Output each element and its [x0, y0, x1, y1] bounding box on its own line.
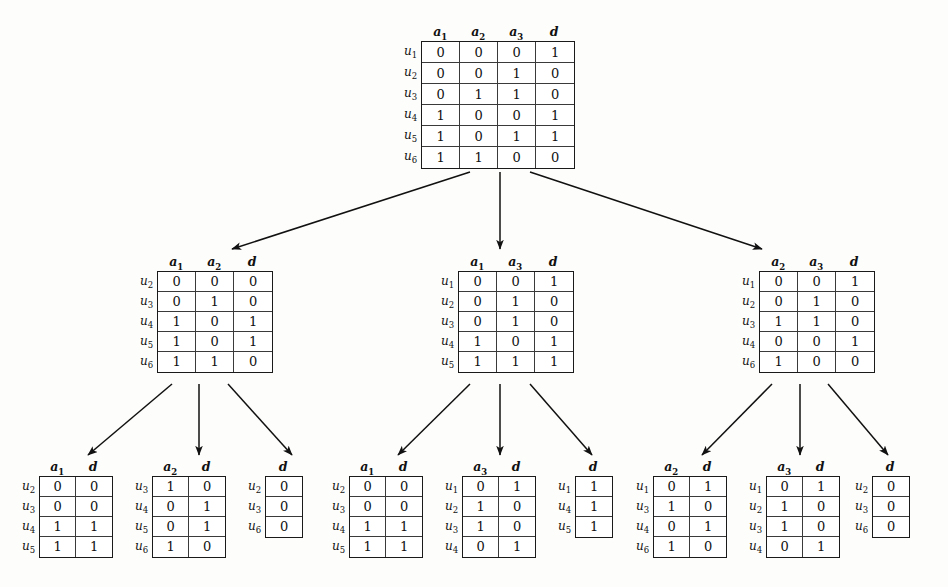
table-row[interactable]: 010 [760, 292, 874, 312]
table-row[interactable]: 0110 [422, 84, 574, 105]
table-node-l1-left[interactable]: u2u3u4u5u6a1a2d000010101101110 [140, 252, 273, 373]
table-row[interactable]: 1 [576, 477, 612, 497]
table-node-leaf-6[interactable]: u1u4u5d111 [558, 458, 613, 538]
table-row[interactable]: 01 [767, 537, 839, 557]
table-row[interactable]: 10 [153, 537, 225, 557]
table-node-leaf-9[interactable]: u2u3u6d000 [855, 458, 910, 538]
table-node-leaf-7[interactable]: u1u3u4u6a2d01100110 [636, 458, 727, 558]
table-node-l1-right[interactable]: u1u2u3u4u6a2a3d001010110001100 [742, 252, 875, 373]
table-cell: 1 [153, 537, 189, 557]
row-label: u5 [558, 516, 575, 536]
decision-table: u1u2u3u4u5a1a3d001010010101111 [441, 252, 574, 373]
table-row[interactable]: 0 [266, 517, 302, 537]
table-row[interactable]: 000 [158, 272, 272, 292]
table-cell: 1 [499, 477, 535, 497]
row-label: u3 [404, 83, 421, 104]
row-label-column: u1u4u5 [558, 458, 575, 536]
table-node-leaf-1[interactable]: u2u3u4u5a1d00001111 [22, 458, 113, 558]
table-row[interactable]: 1011 [422, 126, 574, 147]
table-row[interactable]: 00 [350, 477, 422, 497]
table-row[interactable]: 101 [158, 312, 272, 332]
table-cell: 0 [189, 537, 225, 557]
table-cell: 0 [798, 272, 836, 292]
table-row[interactable]: 010 [158, 292, 272, 312]
table-row[interactable]: 01 [654, 477, 726, 497]
table-node-l1-center[interactable]: u1u2u3u4u5a1a3d001010010101111 [441, 252, 574, 373]
table-row[interactable]: 00 [40, 497, 112, 517]
table-cell: 1 [158, 312, 196, 332]
table-row[interactable]: 001 [459, 272, 573, 292]
table-header-row: a2d [653, 458, 727, 476]
table-row[interactable]: 010 [459, 292, 573, 312]
table-row[interactable]: 110 [158, 352, 272, 372]
table-cell: 1 [498, 63, 536, 84]
table-row[interactable]: 101 [158, 332, 272, 352]
table-body: 000010101101110 [157, 271, 273, 373]
table-cell: 1 [654, 497, 690, 517]
row-label: u3 [135, 476, 152, 496]
table-row[interactable]: 01 [654, 517, 726, 537]
table-row[interactable]: 101 [459, 332, 573, 352]
table-row[interactable]: 0010 [422, 63, 574, 84]
table-row[interactable]: 0 [873, 517, 909, 537]
table-node-root[interactable]: u1u2u3u4u5u6a1a2a3d000100100110100110111… [404, 22, 575, 169]
row-label: u4 [749, 536, 766, 556]
table-row[interactable]: 01 [153, 517, 225, 537]
table-row[interactable]: 10 [463, 497, 535, 517]
table-row[interactable]: 0 [873, 497, 909, 517]
table-row[interactable]: 10 [463, 517, 535, 537]
table-row[interactable]: 01 [463, 477, 535, 497]
table-row[interactable]: 10 [153, 477, 225, 497]
table-cell: 1 [460, 147, 498, 168]
table-row[interactable]: 01 [767, 477, 839, 497]
edge-right-to-leaf9 [828, 384, 888, 455]
table-cell: 1 [158, 352, 196, 372]
column-header: a2 [195, 252, 233, 271]
table-row[interactable]: 110 [760, 312, 874, 332]
table-cell: 0 [386, 477, 422, 497]
table-row[interactable]: 11 [350, 517, 422, 537]
table-row[interactable]: 0 [266, 497, 302, 517]
table-row[interactable]: 10 [654, 497, 726, 517]
table-row[interactable]: 01 [153, 497, 225, 517]
table-row[interactable]: 0001 [422, 42, 574, 63]
table-header-row: a1a3d [458, 252, 574, 271]
table-row[interactable]: 10 [654, 537, 726, 557]
table-cell: 1 [576, 497, 612, 517]
table-row[interactable]: 00 [350, 497, 422, 517]
table-cell: 0 [463, 477, 499, 497]
table-cell: 1 [798, 312, 836, 332]
table-node-leaf-2[interactable]: u3u4u5u6a2d10010110 [135, 458, 226, 558]
table-row[interactable]: 11 [40, 517, 112, 537]
table-cell: 1 [386, 517, 422, 537]
table-row[interactable]: 10 [767, 497, 839, 517]
table-row[interactable]: 010 [459, 312, 573, 332]
table-row[interactable]: 1001 [422, 105, 574, 126]
table-row[interactable]: 1 [576, 497, 612, 517]
table-node-leaf-5[interactable]: u1u2u3u4a3d01101001 [445, 458, 536, 558]
table-cell: 1 [576, 517, 612, 537]
table-row[interactable]: 1100 [422, 147, 574, 168]
table-row[interactable]: 001 [760, 332, 874, 352]
decision-table: u1u2u3u4a3d01101001 [749, 458, 840, 558]
table-row[interactable]: 001 [760, 272, 874, 292]
table-row[interactable]: 100 [760, 352, 874, 372]
table-row[interactable]: 1 [576, 517, 612, 537]
decision-table: u2u3u6d000 [248, 458, 303, 538]
table-header-row: a1a2d [157, 252, 273, 271]
table-row[interactable]: 0 [266, 477, 302, 497]
table-row[interactable]: 00 [40, 477, 112, 497]
table-row[interactable]: 0 [873, 477, 909, 497]
edge-left-to-leaf3 [228, 384, 292, 455]
column-header: d [575, 458, 611, 476]
table-row[interactable]: 11 [350, 537, 422, 557]
table-row[interactable]: 10 [767, 517, 839, 537]
table-row[interactable]: 11 [40, 537, 112, 557]
table-row[interactable]: 01 [463, 537, 535, 557]
table-node-leaf-3[interactable]: u2u3u6d000 [248, 458, 303, 538]
row-label: u1 [749, 476, 766, 496]
table-node-leaf-4[interactable]: u2u3u4u5a1d00001111 [332, 458, 423, 558]
table-row[interactable]: 111 [459, 352, 573, 372]
table-node-leaf-8[interactable]: u1u2u3u4a3d01101001 [749, 458, 840, 558]
table-cell: 0 [234, 292, 272, 312]
